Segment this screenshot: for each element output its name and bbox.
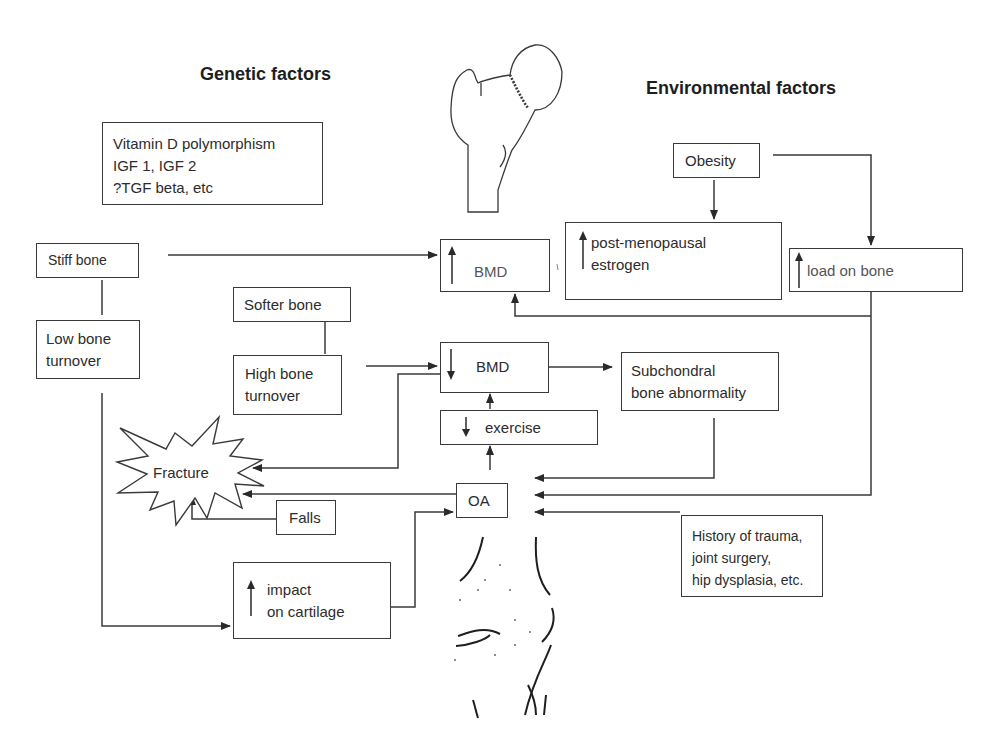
high-bone-turnover-label: High bone turnover	[245, 363, 313, 407]
high-bone-turnover-box: High bone turnover	[233, 355, 342, 415]
history-of-trauma-label: History of trauma, joint surgery, hip dy…	[692, 525, 803, 591]
knee-joint-illustration	[456, 537, 554, 718]
increase-arrow-icon	[447, 246, 457, 286]
exercise-box: exercise	[440, 410, 598, 445]
obesity-box: Obesity	[673, 143, 760, 178]
softer-bone-label: Softer bone	[244, 295, 322, 314]
genetic-factors-list: Vitamin D polymorphism IGF 1, IGF 2 ?TGF…	[113, 133, 275, 199]
subchondral-bone-box: Subchondral bone abnormality	[621, 352, 779, 411]
stiff-bone-label: Stiff bone	[48, 251, 107, 270]
exercise-label: exercise	[485, 418, 541, 437]
subchondral-bone-label: Subchondral bone abnormality	[631, 360, 746, 404]
load-on-bone-box: load on bone	[789, 248, 963, 292]
genetic-factors-box: Vitamin D polymorphism IGF 1, IGF 2 ?TGF…	[102, 122, 323, 205]
history-of-trauma-box: History of trauma, joint surgery, hip dy…	[681, 515, 823, 597]
bmd-increase-box: BMD	[440, 239, 550, 292]
increase-arrow-icon	[246, 580, 256, 616]
impact-on-cartilage-box: impact on cartilage	[233, 562, 391, 639]
bmd-decrease-label: BMD	[476, 357, 509, 376]
load-on-bone-label: load on bone	[807, 261, 894, 280]
low-bone-turnover-label: Low bone turnover	[46, 328, 111, 372]
oa-box: OA	[456, 483, 508, 518]
post-menopausal-estrogen-box: post-menopausal estrogen	[565, 222, 782, 300]
softer-bone-box: Softer bone	[233, 287, 351, 322]
low-bone-turnover-box: Low bone turnover	[36, 320, 140, 379]
increase-arrow-icon	[794, 252, 804, 288]
femur-hip-illustration	[451, 45, 562, 212]
falls-box: Falls	[276, 500, 336, 535]
decrease-arrow-icon	[461, 417, 471, 439]
oa-label: OA	[468, 491, 490, 510]
impact-on-cartilage-label: impact on cartilage	[267, 579, 345, 623]
bmd-increase-label: BMD	[474, 262, 507, 281]
post-menopausal-estrogen-label: post-menopausal estrogen	[591, 232, 706, 276]
obesity-label: Obesity	[685, 151, 736, 170]
stiff-bone-box: Stiff bone	[36, 243, 139, 278]
falls-label: Falls	[289, 508, 321, 527]
increase-arrow-icon	[578, 231, 588, 271]
fracture-label: Fracture	[153, 464, 209, 481]
bmd-decrease-box: BMD	[440, 342, 549, 393]
decrease-arrow-icon	[446, 349, 456, 381]
